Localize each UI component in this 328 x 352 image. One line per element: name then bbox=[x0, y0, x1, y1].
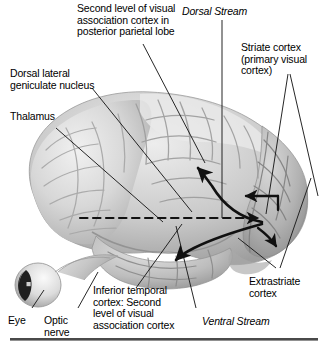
label-parietal-association-cortex: Second level of visual association corte… bbox=[77, 3, 175, 38]
label-eye: Eye bbox=[8, 315, 26, 327]
label-inferior-temporal-cortex: Inferior temporal cortex: Second level o… bbox=[93, 285, 174, 331]
label-dorsal-lateral-geniculate-nucleus: Dorsal lateral geniculate nucleus bbox=[10, 68, 94, 91]
label-optic-nerve: Optic nerve bbox=[44, 315, 70, 338]
label-thalamus: Thalamus bbox=[10, 111, 55, 123]
label-extrastriate-cortex: Extrastriate cortex bbox=[249, 276, 300, 299]
label-striate-cortex: Striate cortex (primary visual cortex) bbox=[241, 42, 307, 77]
bottom-divider bbox=[10, 338, 318, 341]
visual-pathway-figure: Second level of visual association corte… bbox=[0, 0, 328, 352]
brain-illustration bbox=[29, 92, 307, 289]
label-ventral-stream: Ventral Stream bbox=[202, 316, 270, 328]
label-dorsal-stream: Dorsal Stream bbox=[182, 6, 247, 18]
